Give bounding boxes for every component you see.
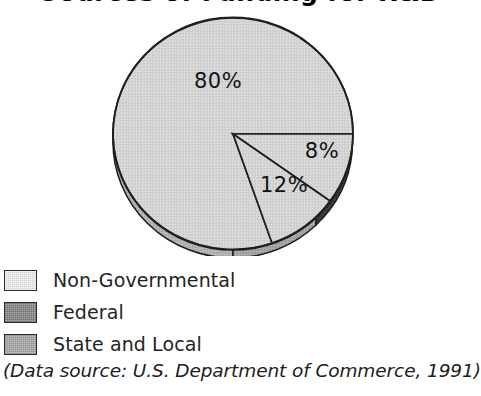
legend-swatch-state-local (4, 334, 37, 355)
slice-label-federal: 8% (305, 139, 339, 163)
slice-label-state-local: 12% (260, 173, 308, 197)
chart-legend: Non-Governmental Federal State and Local (4, 264, 304, 360)
data-source-note: (Data source: U.S. Department of Commerc… (3, 360, 481, 381)
pie-chart: 80% 8% 12% (0, 6, 454, 256)
legend-item-state-local[interactable]: State and Local (4, 328, 304, 360)
legend-label-state-local: State and Local (53, 333, 202, 355)
legend-swatch-non-governmental (4, 270, 37, 291)
legend-label-non-governmental: Non-Governmental (53, 269, 235, 291)
legend-swatch-federal (4, 302, 37, 323)
pie-chart-svg: 80% 8% 12% (0, 6, 454, 256)
legend-item-non-governmental[interactable]: Non-Governmental (4, 264, 304, 296)
legend-item-federal[interactable]: Federal (4, 296, 304, 328)
slice-label-non-governmental: 80% (194, 69, 242, 93)
legend-label-federal: Federal (53, 301, 124, 323)
